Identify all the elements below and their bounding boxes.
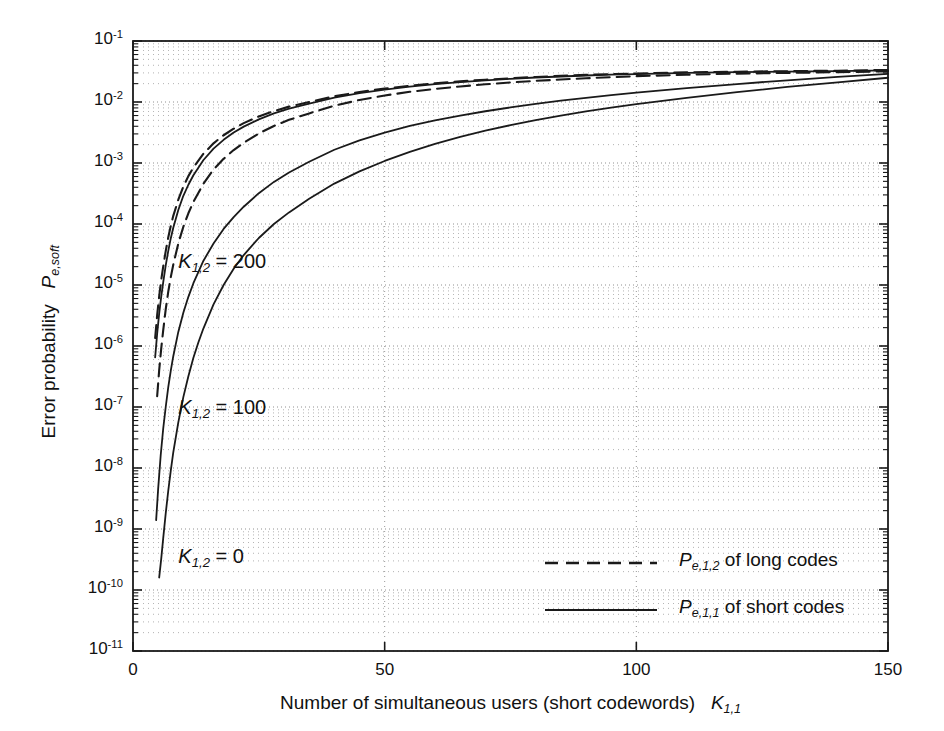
- y-tick-exponent: -3: [113, 150, 123, 162]
- curve-annotation-1: K1,2 = 100: [178, 396, 266, 421]
- y-tick-label--2: 10-2: [35, 89, 123, 110]
- annotation-symbol: K: [178, 545, 191, 567]
- legend-text: of short codes: [720, 596, 845, 617]
- y-tick-label--6: 10-6: [35, 333, 123, 354]
- annotation-value: = 100: [210, 396, 266, 418]
- y-tick-mantissa: 10: [94, 212, 113, 231]
- y-tick-mantissa: 10: [94, 151, 113, 170]
- x-tick-text: 50: [375, 660, 394, 679]
- curve-annotation-2: K1,2 = 0: [178, 545, 244, 570]
- y-tick-mantissa: 10: [94, 517, 113, 536]
- y-tick-exponent: -9: [113, 516, 123, 528]
- y-tick-mantissa: 10: [88, 578, 107, 597]
- x-tick-label-100: 100: [606, 660, 666, 680]
- y-tick-exponent: -2: [113, 89, 123, 101]
- legend-text: of long codes: [720, 549, 838, 570]
- y-tick-label--4: 10-4: [35, 211, 123, 232]
- y-tick-label--1: 10-1: [35, 28, 123, 49]
- y-tick-mantissa: 10: [94, 395, 113, 414]
- y-tick-label--3: 10-3: [35, 150, 123, 171]
- y-tick-label--7: 10-7: [35, 394, 123, 415]
- x-tick-label-50: 50: [355, 660, 415, 680]
- legend-subscript: e,1,1: [692, 606, 720, 620]
- legend-subscript: e,1,2: [692, 559, 720, 573]
- chart-overlay: 10-1110-1010-910-810-710-610-510-410-310…: [0, 0, 944, 731]
- y-tick-exponent: -4: [113, 211, 123, 223]
- x-tick-text: 150: [874, 660, 902, 679]
- y-tick-exponent: -10: [107, 577, 123, 589]
- y-tick-exponent: -1: [113, 28, 123, 40]
- y-tick-mantissa: 10: [94, 273, 113, 292]
- annotation-subscript: 1,2: [192, 260, 210, 275]
- y-tick-mantissa: 10: [94, 334, 113, 353]
- y-tick-exponent: -5: [113, 272, 123, 284]
- y-tick-label--8: 10-8: [35, 455, 123, 476]
- annotation-symbol: K: [178, 250, 191, 272]
- legend-label-0: Pe,1,2 of long codes: [679, 549, 838, 573]
- y-tick-label--5: 10-5: [35, 272, 123, 293]
- y-tick-label--9: 10-9: [35, 516, 123, 537]
- legend-symbol: P: [679, 596, 692, 617]
- y-tick-exponent: -7: [113, 394, 123, 406]
- y-tick-mantissa: 10: [89, 639, 108, 658]
- y-tick-mantissa: 10: [94, 456, 113, 475]
- annotation-value: = 200: [210, 250, 266, 272]
- annotation-symbol: K: [178, 396, 191, 418]
- y-tick-mantissa: 10: [94, 29, 113, 48]
- figure-container: Error probability Pe,soft Number of simu…: [0, 0, 944, 731]
- y-tick-exponent: -8: [113, 455, 123, 467]
- y-tick-exponent: -11: [108, 638, 123, 650]
- x-tick-label-150: 150: [858, 660, 918, 680]
- annotation-value: = 0: [210, 545, 244, 567]
- y-tick-exponent: -6: [113, 333, 123, 345]
- annotation-subscript: 1,2: [192, 405, 210, 420]
- legend-label-1: Pe,1,1 of short codes: [679, 596, 844, 620]
- legend-symbol: P: [679, 549, 692, 570]
- x-tick-text: 0: [128, 660, 137, 679]
- y-tick-label--11: 10-11: [35, 638, 123, 659]
- x-tick-text: 100: [622, 660, 650, 679]
- curve-annotation-0: K1,2 = 200: [178, 250, 266, 275]
- y-tick-label--10: 10-10: [35, 577, 123, 598]
- x-tick-label-0: 0: [103, 660, 163, 680]
- y-tick-mantissa: 10: [94, 90, 113, 109]
- annotation-subscript: 1,2: [192, 555, 210, 570]
